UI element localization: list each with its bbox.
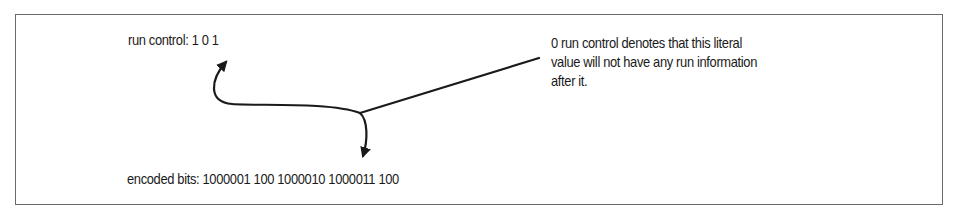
- curved-arrow-up-icon: [214, 62, 360, 113]
- leader-line-icon: [360, 58, 539, 113]
- connector-arrows: [0, 0, 955, 220]
- curved-arrow-down-icon: [360, 113, 366, 156]
